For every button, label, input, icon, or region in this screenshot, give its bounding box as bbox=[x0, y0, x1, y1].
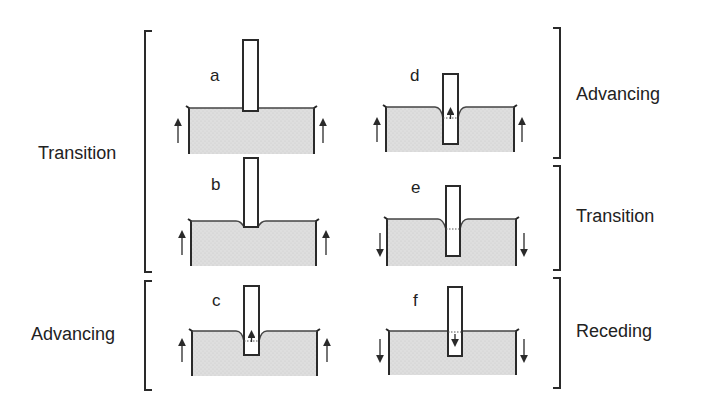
substrate-rod bbox=[243, 40, 258, 111]
panel-letter-e: e bbox=[411, 178, 420, 198]
panel-letter-a: a bbox=[210, 66, 219, 86]
panel-letter-c: c bbox=[212, 291, 221, 311]
right-bracket-advancing bbox=[553, 28, 560, 158]
left-group-label-advancing: Advancing bbox=[31, 324, 115, 345]
substrate-rod bbox=[244, 286, 259, 355]
substrate-rod bbox=[244, 158, 258, 227]
panel-e bbox=[380, 186, 524, 266]
right-bracket-receding bbox=[553, 278, 560, 388]
diagram-canvas bbox=[0, 0, 708, 410]
left-bracket-transition bbox=[145, 31, 152, 272]
right-group-label-receding: Receding bbox=[576, 321, 652, 342]
panel-f bbox=[380, 287, 524, 375]
panel-a bbox=[178, 40, 323, 154]
substrate-rod bbox=[446, 186, 460, 256]
right-bracket-transition bbox=[553, 166, 560, 270]
substrate-rod bbox=[448, 287, 462, 356]
panel-c bbox=[182, 286, 327, 376]
left-group-label-transition: Transition bbox=[38, 143, 116, 164]
right-group-label-advancing: Advancing bbox=[576, 84, 660, 105]
panel-d bbox=[377, 74, 522, 152]
panel-b bbox=[182, 158, 326, 266]
dip-coating-diagram: a b c d e f Transition Advancing Advanci… bbox=[0, 0, 708, 410]
panel-letter-f: f bbox=[413, 291, 418, 311]
panel-letter-d: d bbox=[410, 66, 419, 86]
panel-letter-b: b bbox=[211, 175, 220, 195]
right-group-label-transition: Transition bbox=[576, 206, 654, 227]
substrate-rod bbox=[443, 74, 458, 144]
left-bracket-advancing bbox=[145, 281, 152, 390]
